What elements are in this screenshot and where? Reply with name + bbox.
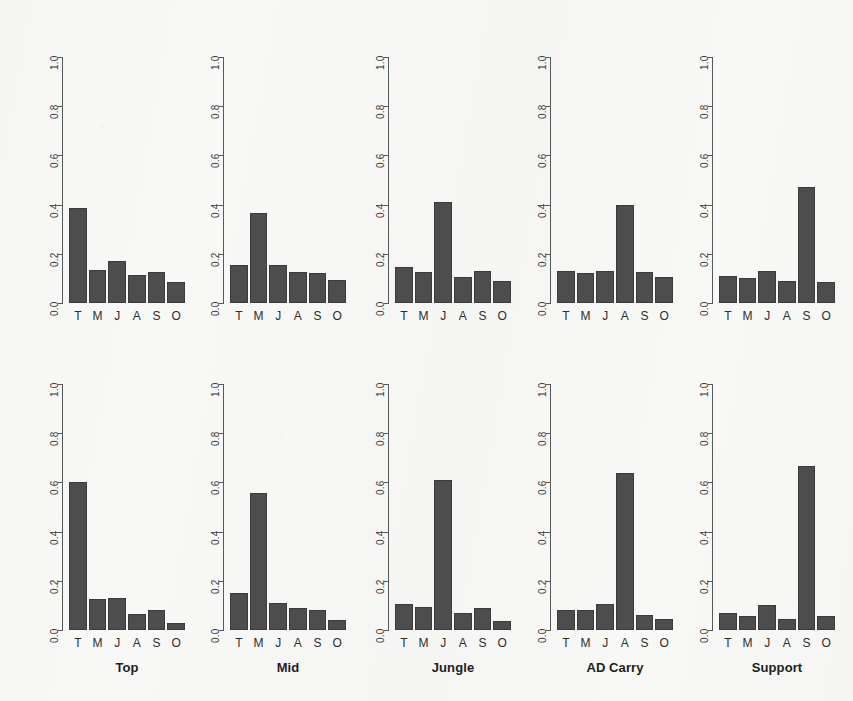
bar-J xyxy=(758,605,776,630)
y-axis-line xyxy=(712,384,713,631)
y-axis-tick-label: 0.8 xyxy=(699,432,710,454)
x-axis-tick-label-S: S xyxy=(797,636,817,650)
bar-M xyxy=(739,616,757,630)
x-axis-tick-label-T: T xyxy=(718,636,738,650)
x-axis-tick-label-A: A xyxy=(777,636,797,650)
y-axis-tick-label: 0.6 xyxy=(699,481,710,503)
x-axis-tick-label-M: M xyxy=(738,636,758,650)
bar-S xyxy=(798,466,816,630)
figure-canvas: 0.00.20.40.60.81.0TMJASO0.00.20.40.60.81… xyxy=(0,0,853,701)
bar-T xyxy=(719,613,737,630)
x-axis-tick-label-J: J xyxy=(757,636,777,650)
bar-O xyxy=(817,616,835,630)
chart-panel-support-r1: 0.00.20.40.60.81.0TMJASOSupport xyxy=(0,0,853,701)
panel-title-support: Support xyxy=(718,660,836,675)
y-axis-tick-label: 0.0 xyxy=(699,629,710,651)
y-axis-tick-label: 0.4 xyxy=(699,530,710,552)
plot-area xyxy=(718,384,836,630)
x-axis-tick-label-O: O xyxy=(816,636,836,650)
y-axis-tick-label: 1.0 xyxy=(699,383,710,405)
bar-A xyxy=(778,619,796,630)
y-axis-tick-label: 0.2 xyxy=(699,579,710,601)
